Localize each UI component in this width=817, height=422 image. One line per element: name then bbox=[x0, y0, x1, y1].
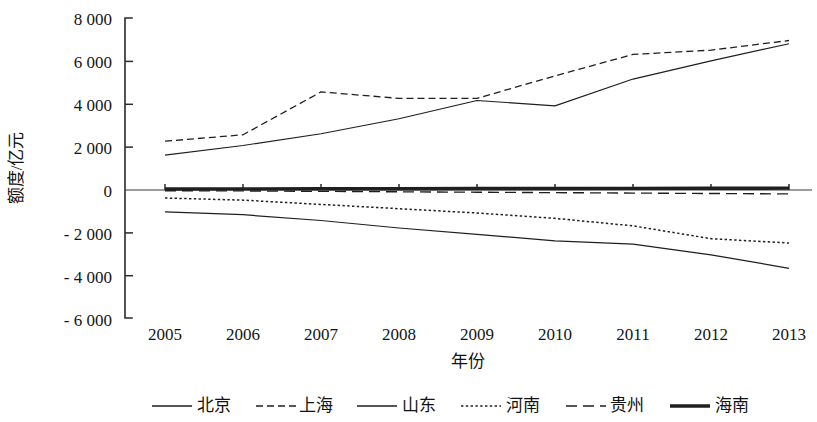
y-tick-label: 4 000 bbox=[74, 96, 112, 115]
x-tick-label: 2005 bbox=[148, 325, 182, 344]
y-tick-label: 6 000 bbox=[74, 53, 112, 72]
legend-label-shanghai: 上海 bbox=[299, 396, 333, 415]
y-tick-label: - 2 000 bbox=[64, 225, 112, 244]
y-tick-label: 8 000 bbox=[74, 10, 112, 29]
legend-label-hainan: 海南 bbox=[715, 396, 749, 415]
x-tick-label: 2009 bbox=[460, 325, 494, 344]
series-group bbox=[165, 41, 789, 269]
legend-label-henan: 河南 bbox=[506, 396, 540, 415]
x-tick-label: 2007 bbox=[304, 325, 339, 344]
y-tick-label: - 4 000 bbox=[64, 268, 112, 287]
legend-label-beijing: 北京 bbox=[197, 396, 231, 415]
legend-item-shandong[interactable]: 山东 bbox=[357, 396, 436, 415]
legend-item-guizhou[interactable]: 贵州 bbox=[566, 396, 644, 415]
y-axis-ticks bbox=[125, 61, 133, 275]
series-path-beijing bbox=[165, 44, 789, 155]
x-tick-label: 2011 bbox=[616, 325, 649, 344]
x-tick-label: 2006 bbox=[226, 325, 260, 344]
legend-item-beijing[interactable]: 北京 bbox=[152, 396, 231, 415]
y-axis-title: 额度/亿元 bbox=[7, 132, 26, 205]
series-path-hainan bbox=[165, 188, 789, 189]
x-tick-label: 2012 bbox=[694, 325, 728, 344]
series-path-shanghai bbox=[165, 41, 789, 142]
x-tick-labels: 2005 2006 2007 2008 2009 2010 2011 2012 … bbox=[148, 325, 806, 344]
y-axis-spine bbox=[125, 18, 132, 318]
legend-label-guizhou: 贵州 bbox=[610, 396, 644, 415]
x-tick-label: 2013 bbox=[772, 325, 806, 344]
series-path-shandong bbox=[165, 212, 789, 268]
y-tick-label: 2 000 bbox=[74, 139, 112, 158]
x-axis-title: 年份 bbox=[451, 352, 485, 371]
series-path-guizhou bbox=[165, 191, 789, 194]
chart-legend: 北京 上海 山东 河南 贵州 海南 bbox=[152, 396, 749, 415]
y-tick-label: - 6 000 bbox=[64, 311, 112, 330]
chart-figure: 额度/亿元 8 000 6 000 4 000 2 000 0 - 2 000 … bbox=[0, 0, 817, 422]
legend-item-hainan[interactable]: 海南 bbox=[670, 396, 749, 415]
line-chart: 额度/亿元 8 000 6 000 4 000 2 000 0 - 2 000 … bbox=[0, 0, 817, 422]
y-tick-labels: 8 000 6 000 4 000 2 000 0 - 2 000 - 4 00… bbox=[64, 10, 112, 330]
legend-item-shanghai[interactable]: 上海 bbox=[256, 396, 333, 415]
legend-label-shandong: 山东 bbox=[402, 396, 436, 415]
y-tick-label: 0 bbox=[104, 182, 113, 201]
legend-item-henan[interactable]: 河南 bbox=[461, 396, 540, 415]
x-tick-label: 2010 bbox=[538, 325, 572, 344]
series-path-henan bbox=[165, 198, 789, 243]
x-tick-label: 2008 bbox=[382, 325, 416, 344]
